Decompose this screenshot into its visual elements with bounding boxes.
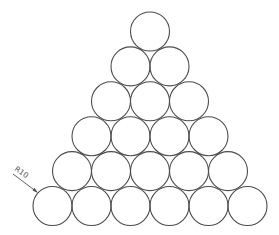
circle-r4-c1 bbox=[72, 117, 111, 156]
circle-r2-c2 bbox=[150, 47, 189, 86]
radius-annotation: R10 bbox=[13, 164, 38, 193]
circle-r1-c1 bbox=[131, 12, 170, 51]
circle-r3-c2 bbox=[131, 82, 170, 121]
circle-triangle-diagram: R10 bbox=[0, 0, 279, 235]
circle-r5-c5 bbox=[209, 152, 248, 191]
circle-r6-c1 bbox=[33, 187, 72, 226]
circle-r5-c1 bbox=[53, 152, 92, 191]
radius-label: R10 bbox=[13, 164, 30, 180]
circle-r4-c4 bbox=[189, 117, 228, 156]
circle-r5-c3 bbox=[131, 152, 170, 191]
circle-r6-c4 bbox=[150, 187, 189, 226]
arrowhead-icon bbox=[33, 188, 39, 193]
circle-r6-c2 bbox=[72, 187, 111, 226]
circle-r2-c1 bbox=[111, 47, 150, 86]
circle-r6-c3 bbox=[111, 187, 150, 226]
circle-group bbox=[33, 12, 267, 226]
circle-r4-c2 bbox=[111, 117, 150, 156]
circle-r3-c1 bbox=[92, 82, 131, 121]
circle-r5-c4 bbox=[170, 152, 209, 191]
circle-r5-c2 bbox=[92, 152, 131, 191]
circle-r6-c6 bbox=[228, 187, 267, 226]
circle-r6-c5 bbox=[189, 187, 228, 226]
circle-r3-c3 bbox=[170, 82, 209, 121]
circle-r4-c3 bbox=[150, 117, 189, 156]
